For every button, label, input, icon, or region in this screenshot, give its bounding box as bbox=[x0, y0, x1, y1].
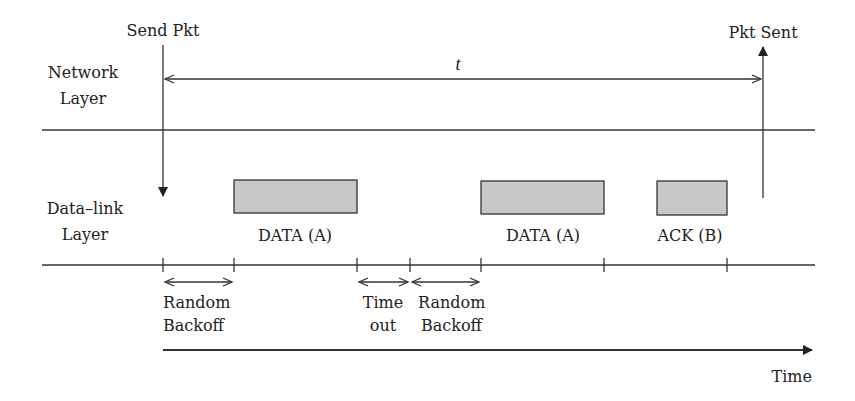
datalink-layer-label-line1: Data–link bbox=[47, 199, 124, 218]
network-layer-label-line1: Network bbox=[48, 63, 119, 82]
random-backoff-1-label-line2: Backoff bbox=[163, 316, 226, 335]
time-axis-label: Time bbox=[772, 367, 812, 386]
timeout-label-line1: Time bbox=[363, 293, 403, 312]
pkt-sent-label: Pkt Sent bbox=[728, 23, 798, 42]
ack-frame-label: ACK (B) bbox=[656, 226, 722, 245]
random-backoff-2-label-line1: Random bbox=[418, 293, 485, 312]
send-pkt-label: Send Pkt bbox=[127, 21, 201, 40]
csma-timing-diagram: Send Pkt Pkt Sent Network Layer Data–lin… bbox=[0, 0, 855, 401]
data-frame-1-label: DATA (A) bbox=[258, 226, 332, 245]
datalink-layer-label-line2: Layer bbox=[62, 225, 109, 244]
duration-label: t bbox=[455, 54, 461, 74]
data-frame-2 bbox=[481, 181, 604, 214]
data-frame-1 bbox=[234, 180, 357, 213]
random-backoff-1-label-line1: Random bbox=[163, 293, 230, 312]
network-layer-label-line2: Layer bbox=[60, 89, 107, 108]
random-backoff-2-label-line2: Backoff bbox=[421, 316, 484, 335]
timeout-label-line2: out bbox=[370, 316, 397, 335]
data-frame-2-label: DATA (A) bbox=[506, 226, 580, 245]
ack-frame bbox=[657, 181, 727, 215]
